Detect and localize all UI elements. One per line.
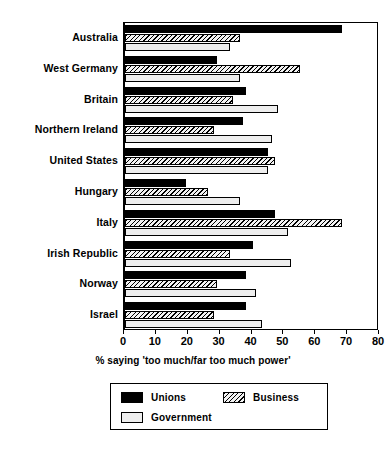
bar-business (125, 157, 275, 165)
x-axis-label: % saying 'too much/far too much power' (0, 355, 386, 366)
bar-business (125, 250, 230, 258)
bar-business (125, 34, 240, 42)
x-axis-tick-labels: 01020304050607080 (0, 335, 386, 351)
bar-government (125, 289, 256, 297)
legend-swatch-government (121, 412, 143, 423)
bar-government (125, 320, 262, 328)
bar-group (125, 239, 377, 270)
x-tick-label: 50 (267, 335, 297, 347)
bar-unions (125, 56, 217, 64)
bar-unions (125, 148, 268, 156)
y-axis-label-west-germany: West Germany (0, 53, 118, 84)
bar-unions (125, 179, 186, 187)
y-axis-label-israel: Israel (0, 299, 118, 330)
bar-group (125, 177, 377, 208)
legend-swatch-business (223, 392, 245, 403)
x-tick-label: 0 (108, 335, 138, 347)
legend-label: Business (253, 392, 299, 403)
bar-business (125, 311, 214, 319)
bar-unions (125, 210, 275, 218)
x-tick-label: 60 (299, 335, 329, 347)
x-tick (187, 330, 188, 334)
bar-group (125, 115, 377, 146)
x-tick-label: 80 (363, 335, 386, 347)
x-tick-label: 10 (140, 335, 170, 347)
bar-government (125, 228, 288, 236)
bar-government (125, 166, 268, 174)
bar-business (125, 65, 300, 73)
y-axis-category-labels: AustraliaWest GermanyBritainNorthern Ire… (0, 22, 118, 330)
bar-unions (125, 302, 246, 310)
x-tick (123, 330, 124, 334)
y-axis-label-italy: Italy (0, 207, 118, 238)
bar-government (125, 197, 240, 205)
x-tick (155, 330, 156, 334)
bar-government (125, 105, 278, 113)
bar-government (125, 135, 272, 143)
legend-swatch-unions (121, 392, 143, 403)
bar-group (125, 85, 377, 116)
y-axis-label-britain: Britain (0, 84, 118, 115)
bar-unions (125, 117, 243, 125)
bar-business (125, 126, 214, 134)
y-axis-label-irish-republic: Irish Republic (0, 238, 118, 269)
bar-business (125, 280, 217, 288)
x-tick-label: 20 (172, 335, 202, 347)
x-tick (282, 330, 283, 334)
legend-label: Unions (151, 392, 186, 403)
bar-group (125, 300, 377, 331)
bar-unions (125, 271, 246, 279)
legend-entry-unions: Unions (121, 390, 186, 404)
x-tick (251, 330, 252, 334)
bar-government (125, 74, 240, 82)
legend-entry-government: Government (121, 410, 212, 424)
x-tick-label: 40 (236, 335, 266, 347)
bar-group (125, 208, 377, 239)
bar-group (125, 269, 377, 300)
y-axis-label-australia: Australia (0, 22, 118, 53)
bar-group (125, 54, 377, 85)
bar-business (125, 188, 208, 196)
x-tick (346, 330, 347, 334)
y-axis-label-hungary: Hungary (0, 176, 118, 207)
bar-group (125, 23, 377, 54)
chart-legend: UnionsBusinessGovernment (110, 383, 328, 430)
bar-unions (125, 25, 342, 33)
y-axis-label-norway: Norway (0, 268, 118, 299)
legend-entry-business: Business (223, 390, 299, 404)
chart-title (0, 0, 386, 8)
legend-label: Government (151, 412, 212, 423)
x-tick-label: 70 (331, 335, 361, 347)
x-tick (219, 330, 220, 334)
bar-unions (125, 241, 253, 249)
y-axis-label-northern-ireland: Northern Ireland (0, 114, 118, 145)
x-tick-label: 30 (204, 335, 234, 347)
plot-area (123, 22, 378, 330)
bar-group (125, 146, 377, 177)
bar-business (125, 219, 342, 227)
x-tick (314, 330, 315, 334)
y-axis-label-united-states: United States (0, 145, 118, 176)
bar-business (125, 96, 233, 104)
x-tick (378, 330, 379, 334)
bar-unions (125, 87, 246, 95)
bar-government (125, 43, 230, 51)
bar-government (125, 259, 291, 267)
